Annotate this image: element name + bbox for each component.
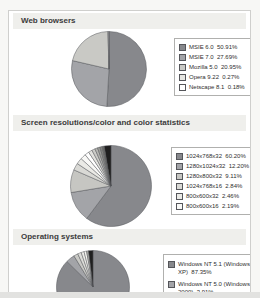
section-header-screen-resolutions: Screen resolutions/color and color stati… <box>13 115 246 131</box>
legend-label: Windows NT 5.1 (Windows XP) 87.35% <box>178 260 251 276</box>
legend-swatch <box>179 44 186 51</box>
legend-label: Mozilla 5.0 20.95% <box>189 62 251 72</box>
section-header-operating-systems: Operating systems <box>13 229 246 245</box>
stats-panel: Web browsers MSIE 6.0 50.91%MSIE 7.0 27.… <box>8 10 251 294</box>
legend-swatch <box>176 153 183 160</box>
legend-web-browsers: MSIE 6.0 50.91%MSIE 7.0 27.69%Mozilla 5.… <box>174 38 251 96</box>
legend-label: 1280x1024x32 12.20% <box>186 161 251 171</box>
legend-item: 800x600x16 2.19% <box>176 201 251 211</box>
legend-item: Netscape 8.1 0.18% <box>179 82 251 92</box>
pie-slice <box>107 32 147 107</box>
legend-swatch <box>176 173 183 180</box>
page-bottom-edge <box>0 292 260 298</box>
legend-swatch <box>176 193 183 200</box>
legend-swatch <box>176 163 183 170</box>
legend-label: Opera 9.22 0.27% <box>189 72 251 82</box>
legend-swatch <box>179 64 186 71</box>
legend-label: 1280x800x32 9.11% <box>186 171 251 181</box>
legend-item: 1280x1024x32 12.20% <box>176 161 251 171</box>
legend-screen-resolutions: 1024x768x32 60.20%1280x1024x32 12.20%128… <box>171 147 251 215</box>
legend-label: 800x600x32 2.46% <box>186 191 251 201</box>
legend-operating-systems: Windows NT 5.1 (Windows XP) 87.35%Window… <box>163 254 251 294</box>
legend-label: 1024x768x16 2.84% <box>186 181 251 191</box>
legend-item: Mozilla 5.0 20.95% <box>179 62 251 72</box>
section-header-web-browsers: Web browsers <box>13 13 246 29</box>
legend-item: Opera 9.22 0.27% <box>179 72 251 82</box>
legend-swatch <box>176 183 183 190</box>
legend-swatch <box>168 261 175 268</box>
legend-label: 800x600x16 2.19% <box>186 201 251 211</box>
pie-chart-web-browsers <box>70 30 148 108</box>
legend-item: MSIE 7.0 27.69% <box>179 52 251 62</box>
legend-swatch <box>179 84 186 91</box>
legend-item: 800x600x32 2.46% <box>176 191 251 201</box>
legend-label: MSIE 7.0 27.69% <box>189 52 251 62</box>
legend-swatch <box>168 281 175 288</box>
legend-swatch <box>179 54 186 61</box>
legend-swatch <box>176 203 183 210</box>
legend-item: 1024x768x16 2.84% <box>176 181 251 191</box>
pie-chart-operating-systems <box>55 249 131 294</box>
pie-chart-screen-resolutions <box>69 144 153 228</box>
legend-item: 1024x768x32 60.20% <box>176 151 251 161</box>
legend-label: Netscape 8.1 0.18% <box>189 82 251 92</box>
legend-label: 1024x768x32 60.20% <box>186 151 251 161</box>
legend-item: MSIE 6.0 50.91% <box>179 42 251 52</box>
legend-item: Windows NT 5.1 (Windows XP) 87.35% <box>168 260 251 276</box>
legend-swatch <box>179 74 186 81</box>
legend-item: 1280x800x32 9.11% <box>176 171 251 181</box>
legend-label: MSIE 6.0 50.91% <box>189 42 251 52</box>
